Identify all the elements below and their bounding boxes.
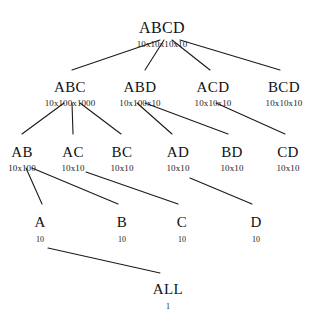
node-c[interactable]: C10 (177, 215, 187, 244)
node-sublabel: 10x10 (221, 164, 244, 173)
node-cd[interactable]: CD10x10 (277, 145, 300, 173)
node-abcd[interactable]: ABCD10x10x10x10 (137, 20, 188, 49)
node-label: ABC (45, 80, 96, 95)
node-sublabel: 1 (153, 303, 183, 311)
node-label: ABD (119, 80, 160, 95)
node-ad[interactable]: AD10x10 (167, 145, 190, 173)
node-bd[interactable]: BD10x10 (221, 145, 244, 173)
node-label: BC (111, 145, 134, 160)
node-label: ALL (153, 282, 183, 297)
node-label: AC (62, 145, 85, 160)
node-bcd[interactable]: BCD10x10x10 (266, 80, 303, 108)
node-bc[interactable]: BC10x10 (111, 145, 134, 173)
node-label: B (117, 215, 127, 230)
node-label: D (250, 215, 261, 230)
node-label: AD (167, 145, 190, 160)
node-label: BD (221, 145, 244, 160)
node-ab[interactable]: AB10x100 (8, 145, 36, 173)
node-sublabel: 10x100x10 (119, 99, 160, 108)
node-label: C (177, 215, 187, 230)
node-a[interactable]: A10 (34, 215, 45, 244)
node-sublabel: 10x10x10 (195, 99, 232, 108)
node-label: AB (8, 145, 36, 160)
node-label: CD (277, 145, 300, 160)
node-d[interactable]: D10 (250, 215, 261, 244)
node-sublabel: 10x10 (167, 164, 190, 173)
node-abd[interactable]: ABD10x100x10 (119, 80, 160, 108)
edge-abcd-bcd (180, 40, 280, 70)
edge-ab-a (26, 168, 42, 204)
edge-ad-d (190, 178, 252, 204)
lattice-diagram: ABCD10x10x10x10ABC10x100x1000ABD10x100x1… (0, 0, 312, 312)
node-sublabel: 10x10 (277, 164, 300, 173)
node-sublabel: 10x10 (62, 164, 85, 173)
node-sublabel: 10 (250, 236, 261, 244)
node-acd[interactable]: ACD10x10x10 (195, 80, 232, 108)
edge-ab-b (32, 168, 118, 204)
node-sublabel: 10x100 (8, 164, 36, 173)
node-abc[interactable]: ABC10x100x1000 (45, 80, 96, 108)
edge-ac-c (86, 172, 178, 204)
node-label: ACD (195, 80, 232, 95)
node-sublabel: 10x100x1000 (45, 99, 96, 108)
node-b[interactable]: B10 (117, 215, 127, 244)
node-ac[interactable]: AC10x10 (62, 145, 85, 173)
node-sublabel: 10 (117, 236, 127, 244)
node-sublabel: 10x10x10x10 (137, 40, 188, 49)
node-label: ABCD (137, 20, 188, 36)
node-label: BCD (266, 80, 303, 95)
edge-a-all (48, 248, 160, 273)
node-label: A (34, 215, 45, 230)
node-sublabel: 10 (177, 236, 187, 244)
node-sublabel: 10 (34, 236, 45, 244)
node-sublabel: 10x10x10 (266, 99, 303, 108)
node-sublabel: 10x10 (111, 164, 134, 173)
node-all[interactable]: ALL1 (153, 282, 183, 311)
